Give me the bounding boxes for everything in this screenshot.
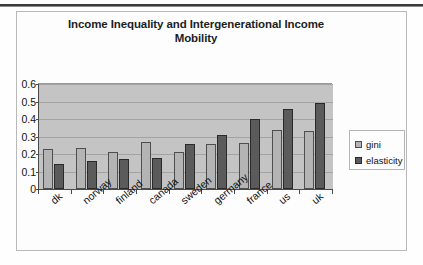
- x-tick-mark: [71, 190, 72, 194]
- legend-swatch-gini: [355, 141, 362, 148]
- y-axis-tick-label: 0: [2, 183, 36, 195]
- bar-france-elasticity[interactable]: [250, 119, 260, 189]
- plot-area: [38, 84, 333, 189]
- gridline: [39, 102, 333, 103]
- bar-us-elasticity[interactable]: [283, 109, 293, 190]
- gridline: [39, 84, 333, 85]
- y-axis-tick-label: 0.3: [2, 131, 36, 143]
- x-tick-mark: [332, 190, 333, 194]
- chart-page: Income Inequality and Intergenerational …: [0, 0, 423, 265]
- y-axis-tick-label: 0.4: [2, 113, 36, 125]
- legend: gini elasticity: [349, 130, 405, 170]
- bar-dk-elasticity[interactable]: [54, 164, 64, 189]
- y-axis-tick-label: 0.5: [2, 96, 36, 108]
- bar-germany-elasticity[interactable]: [217, 135, 227, 189]
- bar-canada-gini[interactable]: [141, 142, 151, 189]
- legend-item-gini[interactable]: gini: [355, 136, 404, 152]
- chart-title-line-1: Income Inequality and Intergenerational …: [46, 17, 346, 31]
- legend-swatch-elasticity: [355, 157, 362, 164]
- page-top-rule-shadow: [0, 6, 423, 7]
- bar-sweden-elasticity[interactable]: [185, 144, 195, 189]
- y-axis-tick-label: 0.1: [2, 166, 36, 178]
- y-axis-tick-label: 0.6: [2, 78, 36, 90]
- bar-norway-gini[interactable]: [76, 148, 86, 189]
- chart-title: Income Inequality and Intergenerational …: [46, 17, 346, 45]
- bar-dk-gini[interactable]: [43, 149, 53, 189]
- y-axis: 0.60.50.40.30.20.10: [0, 84, 36, 189]
- bar-uk-elasticity[interactable]: [315, 103, 325, 189]
- y-axis-tick-label: 0.2: [2, 148, 36, 160]
- x-tick-mark: [299, 190, 300, 194]
- bar-uk-gini[interactable]: [304, 131, 314, 189]
- bar-us-gini[interactable]: [272, 130, 282, 190]
- x-tick-mark: [38, 190, 39, 194]
- legend-label-gini: gini: [366, 139, 381, 150]
- chart-title-line-2: Mobility: [46, 31, 346, 45]
- legend-label-elasticity: elasticity: [366, 155, 402, 166]
- legend-item-elasticity[interactable]: elasticity: [355, 152, 404, 168]
